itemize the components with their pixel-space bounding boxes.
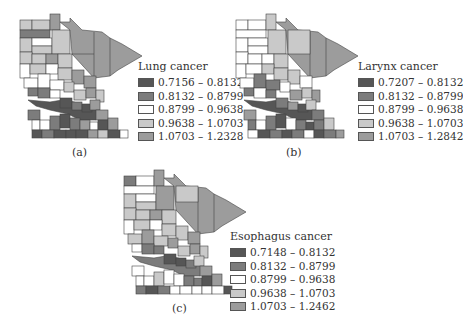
- swatch: [230, 302, 246, 311]
- swatch: [138, 78, 154, 87]
- map-esophagus-cancer: [114, 166, 249, 296]
- swatch: [358, 119, 374, 128]
- panel-caption: (a): [72, 146, 87, 159]
- panel-lung-cancer: Lung cancer 0.7156 – 0.8132 0.8132 – 0.8…: [0, 0, 219, 160]
- legend-title: Larynx cancer: [358, 60, 463, 73]
- swatch: [358, 92, 374, 101]
- swatch: [138, 119, 154, 128]
- panel-caption: (c): [172, 302, 187, 315]
- legend-esophagus-cancer: Esophagus cancer 0.7148 – 0.8132 0.8132 …: [230, 230, 335, 314]
- legend-item: 0.8132 – 0.8799: [230, 260, 335, 274]
- legend-item: 1.0703 – 1.2462: [230, 300, 335, 314]
- legend-item: 0.9638 – 1.0703: [230, 287, 335, 301]
- legend-item: 0.7148 – 0.8132: [230, 246, 335, 260]
- swatch: [230, 248, 246, 257]
- legend-title: Esophagus cancer: [230, 230, 335, 243]
- panel-larynx-cancer: Larynx cancer 0.7207 – 0.8132 0.8132 – 0…: [222, 0, 438, 160]
- swatch: [230, 262, 246, 271]
- swatch: [230, 289, 246, 298]
- panel-esophagus-cancer: Esophagus cancer 0.7148 – 0.8132 0.8132 …: [110, 162, 350, 322]
- map-lung-cancer: [10, 10, 145, 140]
- swatch: [138, 132, 154, 141]
- swatch: [358, 132, 374, 141]
- swatch: [138, 92, 154, 101]
- swatch: [358, 78, 374, 87]
- legend-item: 0.7207 – 0.8132: [358, 76, 463, 90]
- swatch: [358, 105, 374, 114]
- legend-larynx-cancer: Larynx cancer 0.7207 – 0.8132 0.8132 – 0…: [358, 60, 463, 144]
- panel-caption: (b): [286, 146, 302, 159]
- legend-item: 1.0703 – 1.2842: [358, 130, 463, 144]
- legend-item: 0.8799 – 0.9638: [230, 273, 335, 287]
- map-larynx-cancer: [226, 10, 361, 140]
- swatch: [138, 105, 154, 114]
- legend-item: 0.8799 – 0.9638: [358, 103, 463, 117]
- legend-item: 0.9638 – 1.0703: [358, 117, 463, 131]
- swatch: [230, 275, 246, 284]
- legend-item: 0.8132 – 0.8799: [358, 90, 463, 104]
